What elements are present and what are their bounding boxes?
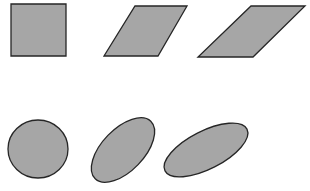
circle-shape bbox=[8, 120, 68, 178]
ellipse-shape-2 bbox=[156, 112, 255, 188]
parallelogram-shape-2 bbox=[198, 6, 305, 57]
ellipse-shape-1 bbox=[80, 107, 166, 191]
parallelogram-shape-1 bbox=[104, 6, 187, 56]
ellipse-row bbox=[8, 107, 256, 191]
shear-transformation-diagram bbox=[0, 0, 310, 191]
square-shape bbox=[11, 4, 66, 56]
polygon-row bbox=[11, 4, 305, 57]
